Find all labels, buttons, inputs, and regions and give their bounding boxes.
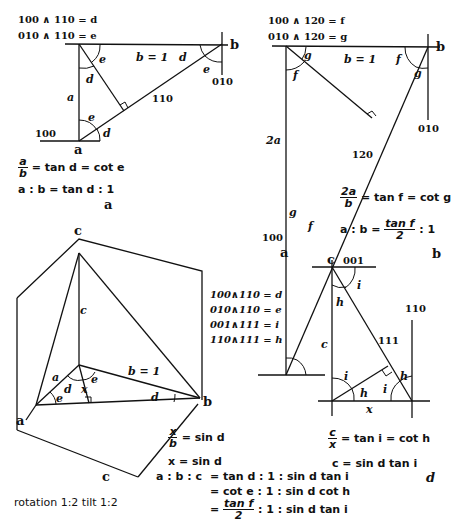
x-equals-sin-d: x = sin d [168,456,222,467]
fraction-tanf-over-2: tan f2 [384,218,415,241]
x-length-label: x [81,384,88,395]
a-length-label: a [67,92,74,103]
angle-e-label-bottom: e [88,112,95,123]
angle-definition-g: 010 ∧ 120 = g [268,32,347,42]
fraction-c-over-x: cx [328,427,337,450]
angle-d-label: d [86,74,94,85]
c-equals-equation: c = sin d tan i [332,458,417,469]
corner-c-label: c [327,253,335,266]
rotation-tilt-note: rotation 1:2 tilt 1:2 [14,497,118,508]
panel-d-caption: d [426,471,435,484]
summary-row-1: = tan d : 1 : sin d tan i [210,471,349,482]
angle-i-label-left: i [344,371,348,382]
angle-e-label-right: e [203,64,210,75]
face-010-label: 010 [418,124,439,134]
summary-row-3: = tan f2 : 1 : sin d tan i [210,498,348,521]
c-length-label: c [321,339,328,350]
angle-e-label: e [99,54,106,65]
face-001-label: 001 [343,256,364,266]
panel-c-caption: c [102,470,110,483]
summary-row-2: = cot e : 1 : sin d cot h [210,486,350,497]
corner-c-label: c [74,224,82,237]
c-length-label: c [80,305,87,316]
angle-definition-h: 110∧111 = h [210,335,282,345]
angle-d-label-bottom: d [103,128,111,139]
ratio-equation-1: ab = tan d = cot e [18,156,124,179]
corner-b-label: b [230,38,239,51]
ratio-equation-2: a : b = tan f2 : 1 [340,218,435,241]
angle-f-label: f [293,70,298,81]
ratio-equation-1: 2ab = tan f = cot g [340,186,451,209]
angle-i-label-top: i [357,280,361,291]
face-110-label: 110 [405,304,426,314]
panel-a-lines [40,32,228,141]
b-length-label: b = 1 [344,54,376,65]
angle-g-label: g [304,50,312,61]
fraction-x-over-b: xb [168,426,178,449]
angle-h-label-left: h [360,388,368,399]
angle-f-label-bottom: f [308,221,313,232]
corner-a-label: a [74,143,82,156]
angle-g-label-right: g [414,68,422,79]
angle-definition-d: 100 ∧ 110 = d [18,15,97,25]
corner-b-label: b [436,40,445,53]
angle-definition-e: 010 ∧ 110 = e [18,31,97,41]
summary-lhs: a : b : c [156,471,202,482]
panel-a-caption: a [104,198,112,211]
face-111-label: 111 [378,336,399,346]
angle-definition-i: 001∧111 = i [210,320,279,330]
angle-e-label-left: e [56,393,63,404]
angle-h-label-right: h [400,371,408,382]
angle-definition-e: 010∧110 = e [210,305,282,315]
2a-length-label: 2a [266,135,281,146]
face-100-label: 100 [35,129,56,139]
fraction-a-over-b: ab [18,156,28,179]
corner-a-label: a [16,414,24,427]
angle-h-label-top: h [336,297,344,308]
a-length-label: a [52,372,59,383]
panel-b-caption: b [432,247,441,260]
x-length-label: x [366,404,373,415]
corner-a-label: a [280,246,288,259]
angle-d-label-right: d [151,392,159,403]
x-over-b-equation: xb = sin d [168,426,225,449]
b-length-label: b = 1 [136,52,168,63]
angle-definition-d: 100∧110 = d [210,290,282,300]
face-110-label: 110 [152,94,173,104]
fraction-tanf-over-2: tan f2 [223,498,254,521]
angle-g-label-bottom: g [289,207,297,218]
c-over-x-equation: cx = tan i = cot h [328,427,430,450]
ratio-equation-2: a : b = tan d : 1 [18,184,114,195]
angle-i-label-right: i [383,384,387,395]
face-100-label: 100 [262,233,283,243]
panel-d-lines [312,260,430,418]
corner-b-label: b [203,395,212,408]
face-120-label: 120 [352,150,373,160]
angle-f-label-right: f [396,54,401,65]
angle-d-label-right: d [179,52,187,63]
angle-definition-f: 100 ∧ 120 = f [268,16,344,26]
angle-d-label: d [64,384,72,395]
b-length-label: b = 1 [128,366,160,377]
fraction-2a-over-b: 2ab [340,186,357,209]
angle-e-label: e [91,374,98,385]
face-010-label: 010 [212,77,233,87]
